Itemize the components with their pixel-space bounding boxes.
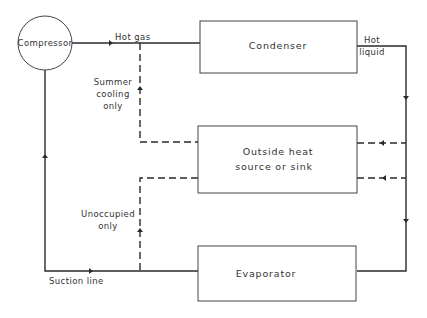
evaporator-label: Evaporator bbox=[236, 268, 296, 279]
unoccupied-label-1: Unoccupied bbox=[81, 209, 135, 219]
summer-label-2: cooling bbox=[96, 89, 129, 99]
compressor: Compressor bbox=[18, 16, 73, 70]
summer-label-1: Summer bbox=[94, 77, 133, 87]
arrow-liquid-down-icon bbox=[403, 96, 409, 100]
outside-label-line2: source or sink bbox=[235, 161, 313, 172]
suction-line-label: Suction line bbox=[49, 276, 104, 286]
condenser: Condenser bbox=[200, 21, 357, 73]
arrow-suction-up-icon bbox=[42, 154, 48, 158]
hot-liquid-label-1: Hot bbox=[364, 35, 380, 45]
hot-gas-label: Hot gas bbox=[115, 32, 151, 42]
hot-liquid-line bbox=[357, 46, 406, 271]
outside-heat-source-or-sink: Outside heat source or sink bbox=[198, 126, 357, 193]
outside-label-line1: Outside heat bbox=[243, 146, 314, 157]
unoccupied-label-2: only bbox=[98, 221, 118, 231]
arrow-liquid-down-lower-icon bbox=[403, 219, 409, 223]
summer-label-3: only bbox=[103, 101, 123, 111]
compressor-label: Compressor bbox=[18, 38, 73, 48]
arrow-suction-icon bbox=[89, 268, 93, 274]
unoccupied-bypass bbox=[140, 178, 198, 271]
hot-liquid-label-2: liquid bbox=[359, 47, 385, 57]
arrow-outside-upper-icon bbox=[380, 140, 384, 146]
arrow-unoccupied-up-icon bbox=[137, 228, 143, 232]
condenser-label: Condenser bbox=[249, 40, 307, 51]
arrow-hot-gas-icon bbox=[109, 40, 113, 46]
arrow-outside-lower-icon bbox=[382, 175, 386, 181]
arrow-summer-up-icon bbox=[137, 86, 143, 90]
summer-cooling-bypass bbox=[140, 43, 198, 142]
refrigeration-cycle-diagram: Compressor Condenser Outside heat source… bbox=[0, 0, 427, 318]
evaporator: Evaporator bbox=[198, 246, 356, 301]
